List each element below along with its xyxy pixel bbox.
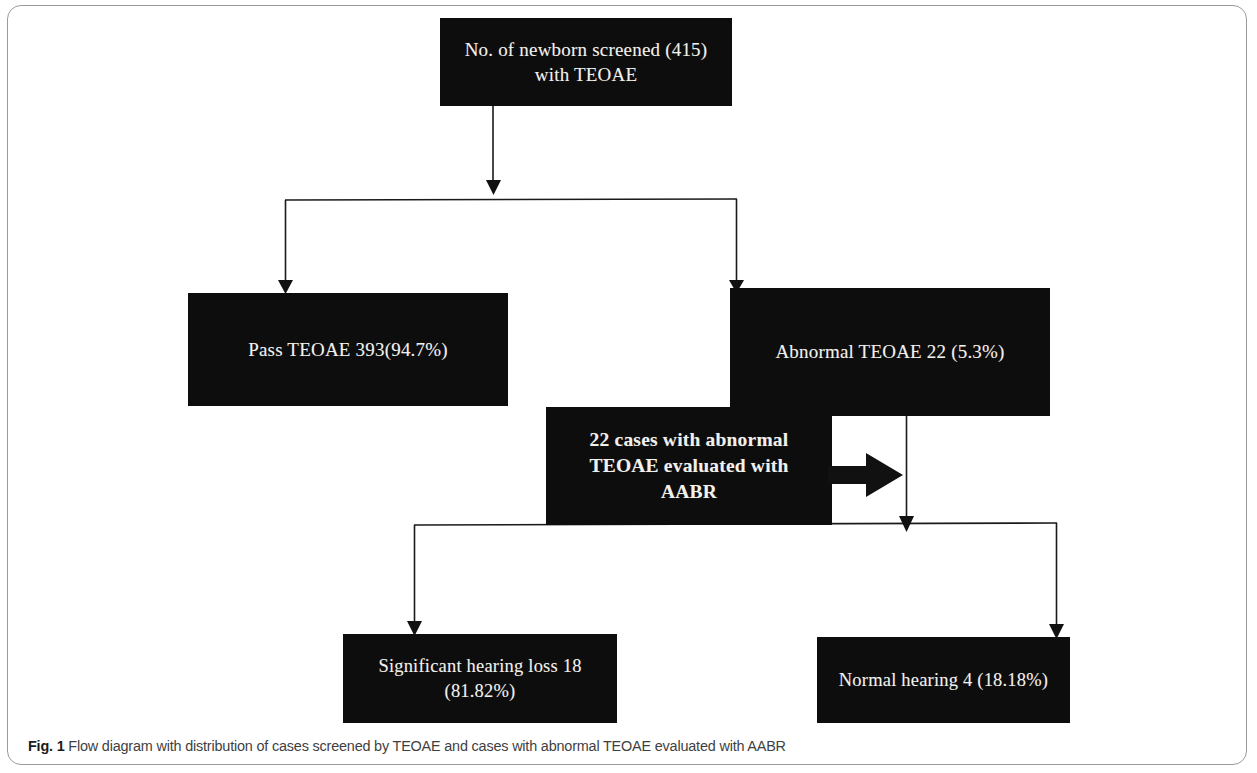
figure-container: No. of newborn screened (415) with TEOAE… xyxy=(0,0,1257,773)
figure-caption-text: Flow diagram with distribution of cases … xyxy=(68,737,785,754)
flow-diagram-canvas: No. of newborn screened (415) with TEOAE… xyxy=(0,0,1257,735)
figure-caption: Fig. 1 Flow diagram with distribution of… xyxy=(28,737,1135,755)
block-arrow-layer xyxy=(0,0,1257,735)
block-arrow-aabr-to-abnormal xyxy=(828,453,903,497)
figure-caption-label: Fig. 1 xyxy=(28,737,65,754)
